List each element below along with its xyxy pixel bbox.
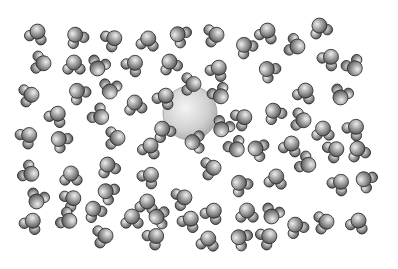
hydrated-ion-illustration (0, 0, 398, 269)
